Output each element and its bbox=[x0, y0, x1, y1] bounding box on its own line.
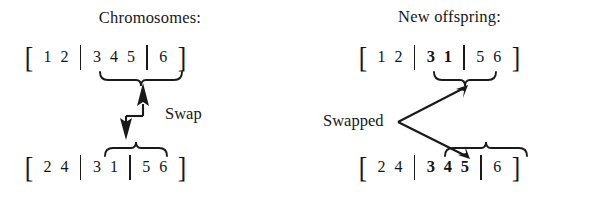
segment-divider bbox=[80, 155, 81, 180]
crossover-swap-figure: Chromosomes: [ 1 2 3 4 5 6 ] bbox=[0, 0, 599, 201]
swapped-label: Swapped bbox=[323, 111, 384, 131]
gene-cell: 4 bbox=[105, 44, 122, 70]
swap-label: Swap bbox=[165, 104, 202, 124]
open-bracket: [ bbox=[359, 44, 368, 70]
gene-cell: 6 bbox=[489, 154, 506, 180]
gene-cell: 6 bbox=[155, 44, 172, 70]
close-bracket: ] bbox=[178, 154, 187, 180]
gene-cell: 2 bbox=[56, 44, 73, 70]
segment-divider bbox=[480, 155, 481, 180]
close-bracket: ] bbox=[512, 44, 521, 70]
close-bracket: ] bbox=[178, 44, 187, 70]
gene-cell: 1 bbox=[105, 154, 122, 180]
open-bracket: [ bbox=[25, 44, 34, 70]
open-bracket: [ bbox=[359, 154, 368, 180]
chromosome-row-child-b: [ 2 4 3 4 5 6 ] bbox=[358, 152, 521, 182]
gene-cell: 1 bbox=[39, 44, 56, 70]
segment-divider bbox=[129, 155, 130, 180]
gene-cell: 4 bbox=[56, 154, 73, 180]
chromosomes-panel: Chromosomes: [ 1 2 3 4 5 6 ] bbox=[0, 0, 300, 201]
gene-cell: 3 bbox=[88, 154, 105, 180]
swap-arrow bbox=[112, 80, 156, 142]
gene-cell: 1 bbox=[439, 44, 456, 70]
gene-cell: 6 bbox=[155, 154, 172, 180]
segment-divider bbox=[414, 155, 415, 180]
gene-cell: 2 bbox=[390, 44, 407, 70]
segment-divider bbox=[146, 45, 147, 70]
gene-cell: 5 bbox=[456, 154, 473, 180]
gene-cell: 6 bbox=[489, 44, 506, 70]
segment-divider bbox=[414, 45, 415, 70]
chromosome-row-parent-a: [ 1 2 3 4 5 6 ] bbox=[24, 42, 187, 72]
gene-cell: 2 bbox=[373, 154, 390, 180]
chromosome-row-child-a: [ 1 2 3 1 5 6 ] bbox=[358, 42, 521, 72]
gene-cell: 4 bbox=[390, 154, 407, 180]
segment-divider bbox=[463, 45, 464, 70]
close-bracket: ] bbox=[512, 154, 521, 180]
gene-cell: 3 bbox=[422, 44, 439, 70]
gene-cell: 4 bbox=[439, 154, 456, 180]
gene-cell: 5 bbox=[122, 44, 139, 70]
gene-cell: 3 bbox=[88, 44, 105, 70]
new-offspring-panel-title: New offspring: bbox=[300, 7, 599, 27]
gene-cell: 5 bbox=[472, 44, 489, 70]
chromosome-row-parent-b: [ 2 4 3 1 5 6 ] bbox=[24, 152, 187, 182]
gene-cell: 2 bbox=[39, 154, 56, 180]
gene-cell: 1 bbox=[373, 44, 390, 70]
chromosomes-panel-title: Chromosomes: bbox=[0, 8, 300, 28]
segment-divider bbox=[80, 45, 81, 70]
gene-cell: 5 bbox=[138, 154, 155, 180]
open-bracket: [ bbox=[25, 154, 34, 180]
gene-cell: 3 bbox=[422, 154, 439, 180]
